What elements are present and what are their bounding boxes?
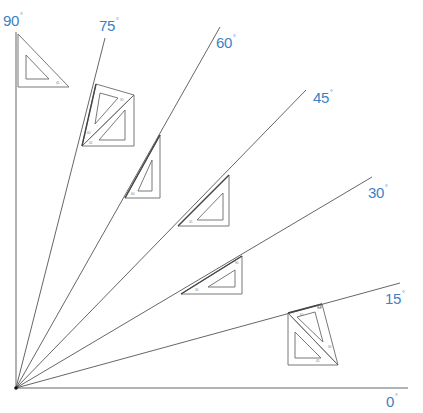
label-15-deg: 15°	[385, 291, 405, 306]
svg-text:30: 30	[328, 345, 332, 349]
label-90-value: 90	[3, 12, 19, 29]
ray-45-deg	[16, 90, 306, 388]
label-30-value: 30	[368, 184, 384, 201]
label-60-value: 60	[216, 34, 232, 51]
label-60-deg: 60°	[216, 35, 236, 50]
svg-text:45: 45	[316, 359, 320, 363]
svg-text:45: 45	[189, 220, 193, 224]
set-square-75: 30 60 45	[82, 84, 134, 146]
set-square-15: 60 30 45	[288, 304, 338, 365]
degree-symbol: °	[116, 17, 119, 24]
degree-symbol: °	[402, 290, 405, 297]
svg-text:45: 45	[89, 141, 93, 145]
degree-symbol: °	[385, 184, 388, 191]
set-square-45: 45	[178, 175, 229, 226]
svg-text:60: 60	[300, 313, 304, 317]
svg-text:30: 30	[120, 98, 124, 102]
set-square-60: 60	[125, 135, 160, 198]
ray-75-deg	[16, 38, 105, 388]
svg-text:60: 60	[87, 131, 91, 135]
degree-symbol: °	[395, 393, 398, 400]
label-75-value: 75	[99, 17, 115, 34]
label-45-value: 45	[313, 89, 329, 106]
svg-text:30: 30	[195, 288, 199, 292]
label-45-deg: 45°	[313, 90, 333, 105]
label-0-deg: 0°	[386, 394, 398, 409]
label-30-deg: 30°	[368, 185, 388, 200]
degree-symbol: °	[233, 34, 236, 41]
diagram-canvas: 45 30 60 45 60 45	[0, 0, 423, 413]
svg-text:60: 60	[131, 192, 135, 196]
set-square-90: 45	[18, 34, 69, 87]
degree-symbol: °	[330, 89, 333, 96]
ray-15-deg	[16, 283, 400, 388]
label-15-value: 15	[385, 290, 401, 307]
origin-point	[14, 386, 18, 390]
set-square-30: 90 30	[181, 256, 242, 294]
svg-text:90: 90	[235, 261, 239, 265]
label-90-deg: 90°	[3, 13, 23, 28]
ray-30-deg	[16, 177, 372, 388]
label-0-value: 0	[386, 393, 394, 410]
ray-60-deg	[16, 27, 220, 388]
label-75-deg: 75°	[99, 18, 119, 33]
set-square-angles-diagram: 45 30 60 45 60 45	[0, 0, 423, 413]
degree-symbol: °	[20, 12, 23, 19]
svg-text:45: 45	[56, 81, 60, 85]
